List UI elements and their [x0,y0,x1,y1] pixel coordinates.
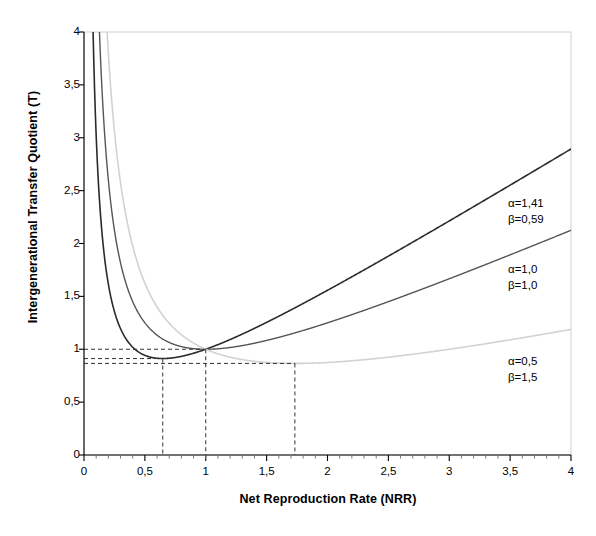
series-annotation: α=0,5β=1,5 [508,354,537,385]
chart-figure: Intergenerational Transfer Quotient (T) … [0,0,596,536]
series-annotation-line: α=1,41 [508,196,544,212]
series-annotation-line: α=1,0 [508,262,537,278]
series-annotation: α=1,41β=0,59 [508,196,544,227]
series-annotation-line: β=1,0 [508,278,537,294]
series-annotation-line: β=0,59 [508,212,544,228]
plot-area [0,0,596,536]
series-annotation-line: β=1,5 [508,370,537,386]
series-annotation-line: α=0,5 [508,354,537,370]
series-annotation: α=1,0β=1,0 [508,262,537,293]
